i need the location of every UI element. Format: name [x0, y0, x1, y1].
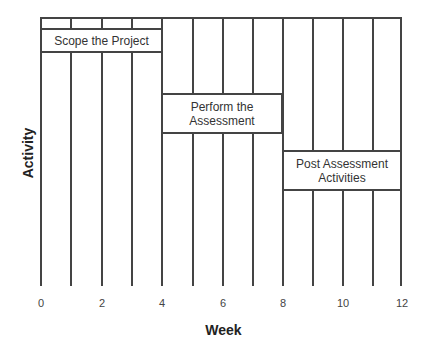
x-tick-12: 12 [396, 297, 408, 309]
grid-line-week-4 [161, 17, 163, 286]
x-tick-2: 2 [99, 297, 105, 309]
task-label-line2: Activities [318, 171, 365, 185]
grid-line-week-3 [131, 17, 133, 286]
y-axis-label: Activity [20, 113, 36, 193]
grid-line-week-1 [70, 17, 72, 286]
task-bar-scope-the-project: Scope the Project [40, 28, 163, 53]
x-axis-label: Week [0, 322, 427, 338]
grid-line-week-7 [252, 17, 254, 286]
grid-line-week-5 [192, 17, 194, 286]
task-bar-perform-the-assessment: Perform the Assessment [161, 93, 283, 134]
x-tick-0: 0 [38, 297, 44, 309]
grid-line-week-2 [101, 17, 103, 286]
grid-line-week-6 [222, 17, 224, 286]
x-tick-4: 4 [159, 297, 165, 309]
x-tick-6: 6 [220, 297, 226, 309]
task-label-line1: Perform the [191, 100, 254, 114]
grid-line-week-0 [40, 17, 42, 286]
task-label-line2: Assessment [189, 114, 254, 128]
task-label: Scope the Project [54, 34, 149, 48]
x-tick-10: 10 [337, 297, 349, 309]
x-tick-8: 8 [280, 297, 286, 309]
task-label-line1: Post Assessment [296, 157, 388, 171]
task-bar-post-assessment-activities: Post Assessment Activities [282, 150, 402, 191]
